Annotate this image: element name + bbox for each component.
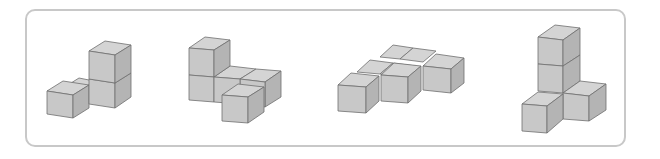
cube-figure-4 (0, 0, 660, 159)
